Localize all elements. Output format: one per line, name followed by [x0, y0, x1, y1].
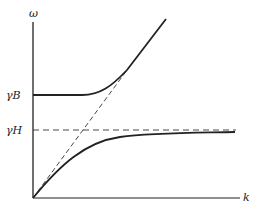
lower-branch-curve: [33, 132, 235, 198]
y-axis-label: ω: [29, 7, 38, 20]
upper-branch-curve: [33, 19, 166, 95]
gamma-b-label: γB: [6, 89, 21, 102]
light-line-dashed: [33, 66, 130, 198]
dispersion-diagram: ω k γB γH: [0, 0, 257, 210]
x-axis-label: k: [243, 191, 250, 204]
gamma-h-label: γH: [6, 124, 23, 137]
